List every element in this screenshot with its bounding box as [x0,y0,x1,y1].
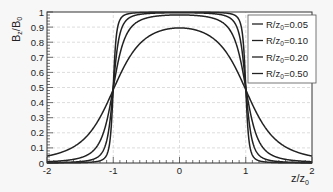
y-tick-label: 0.8 [31,37,44,48]
y-tick-label: 0.6 [31,67,44,78]
y-tick-label: 0.2 [31,127,44,138]
x-tick-label: 1 [243,165,248,176]
y-tick-label: 0.9 [31,22,44,33]
x-tick-label: 2 [309,165,314,176]
legend: R/z0=0.05R/z0=0.10R/z0=0.20R/z0=0.50 [248,15,316,83]
y-tick-label: 0.5 [31,82,44,93]
y-tick-label: 0.1 [31,142,44,153]
x-tick-label: 0 [177,165,182,176]
legend-label: R/z0=0.05 [266,19,308,31]
y-tick-label: 0.7 [31,52,44,63]
y-tick-label: 0.4 [31,97,44,108]
x-tick-label: -2 [43,165,51,176]
y-tick-label: 1 [39,7,44,18]
solenoid-field-chart: 00.10.20.30.40.50.60.70.80.91 -2-1012 Bz… [0,0,333,192]
x-tick-label: -1 [109,165,117,176]
legend-label: R/z0=0.10 [266,35,308,47]
x-tick-labels: -2-1012 [43,165,315,176]
legend-label: R/z0=0.50 [266,68,308,80]
legend-label: R/z0=0.20 [266,52,308,64]
x-axis-title: z/z0 [291,172,309,186]
y-tick-labels: 00.10.20.30.40.50.60.70.80.91 [31,7,44,169]
y-tick-label: 0.3 [31,112,44,123]
y-axis-title: Bz/B0 [10,17,23,42]
